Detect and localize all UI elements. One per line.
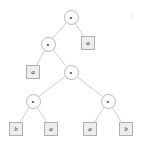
tree-edge — [77, 77, 102, 97]
internal-node-label: ∘ — [106, 98, 110, 104]
tree-edge — [53, 23, 66, 39]
tree-internal-node: ∘ — [41, 37, 56, 52]
tree-leaf-node: a — [26, 65, 40, 79]
tree-leaf-node: a — [81, 36, 95, 50]
tree-edge — [53, 50, 66, 66]
leaf-node-label: a — [86, 39, 90, 46]
tree-edge — [112, 107, 122, 123]
internal-node-label: ∘ — [31, 98, 35, 104]
tree-internal-node: ∘ — [101, 94, 116, 109]
tree-internal-node: ∘ — [64, 10, 79, 25]
internal-node-label: ∘ — [46, 41, 50, 47]
tree-edge — [36, 51, 44, 66]
tree-leaf-node: b — [119, 122, 133, 136]
tree-edge — [20, 107, 29, 123]
leaf-node-label: b — [14, 125, 18, 132]
leaf-node-label: a — [49, 125, 53, 132]
leaf-node-label: b — [124, 125, 128, 132]
leaf-node-label: a — [31, 68, 35, 75]
internal-node-label: ∘ — [69, 14, 73, 20]
tree-leaf-node: a — [44, 122, 58, 136]
tree-edge — [94, 107, 104, 123]
tree-diagram: ∘∘aa∘∘∘baab — [0, 0, 143, 144]
tree-internal-node: ∘ — [26, 94, 41, 109]
leaf-node-label: a — [88, 125, 92, 132]
tree-edge — [39, 77, 65, 97]
image-speck — [131, 15, 133, 17]
tree-edge — [37, 107, 47, 123]
tree-internal-node: ∘ — [64, 65, 79, 80]
tree-leaf-node: b — [9, 122, 23, 136]
tree-leaf-node: a — [83, 122, 97, 136]
internal-node-label: ∘ — [69, 69, 73, 75]
